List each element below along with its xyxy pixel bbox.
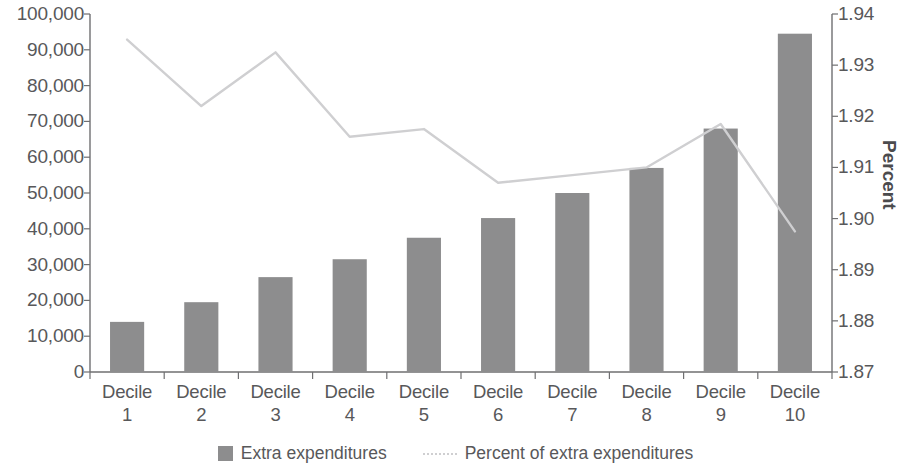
right-axis-tick-label: 1.94 bbox=[838, 3, 874, 25]
x-axis-category-label: Decile6 bbox=[461, 380, 535, 440]
right-axis-tick-label: 1.91 bbox=[838, 156, 874, 178]
x-axis-category-label: Decile4 bbox=[313, 380, 387, 440]
left-axis-tick-label: 80,000 bbox=[27, 75, 84, 97]
category-word: Decile bbox=[770, 381, 820, 402]
x-axis-category-label: Decile2 bbox=[164, 380, 238, 440]
left-axis-tick-label: 50,000 bbox=[27, 182, 84, 204]
x-axis-category-label: Decile10 bbox=[758, 380, 832, 440]
left-axis-tick-label: 90,000 bbox=[27, 39, 84, 61]
x-axis-category-labels: Decile1Decile2Decile3Decile4Decile5Decil… bbox=[90, 380, 832, 440]
plot-svg bbox=[90, 14, 832, 372]
category-word: Decile bbox=[176, 381, 226, 402]
x-axis-category-label: Decile3 bbox=[238, 380, 312, 440]
bar bbox=[258, 277, 292, 372]
category-word: Decile bbox=[325, 381, 375, 402]
left-axis-tick-label: 70,000 bbox=[27, 110, 84, 132]
legend-line-swatch-icon bbox=[423, 453, 457, 455]
legend-label: Extra expenditures bbox=[241, 443, 387, 464]
category-word: Decile bbox=[696, 381, 746, 402]
legend-entry[interactable]: Percent of extra expenditures bbox=[423, 443, 694, 464]
x-axis-category-label: Decile5 bbox=[387, 380, 461, 440]
category-number: 10 bbox=[758, 403, 832, 426]
right-axis-tick-label: 1.92 bbox=[838, 105, 874, 127]
left-axis-tick-label: 40,000 bbox=[27, 218, 84, 240]
right-axis-tick-labels: 1.871.881.891.901.911.921.931.94 bbox=[838, 0, 898, 471]
bar bbox=[778, 34, 812, 372]
right-axis-tick-label: 1.90 bbox=[838, 208, 874, 230]
category-word: Decile bbox=[102, 381, 152, 402]
percent-line bbox=[127, 40, 795, 232]
right-axis-tick-label: 1.88 bbox=[838, 310, 874, 332]
category-number: 7 bbox=[535, 403, 609, 426]
bar bbox=[333, 259, 367, 372]
x-axis-category-label: Decile9 bbox=[684, 380, 758, 440]
category-number: 1 bbox=[90, 403, 164, 426]
category-number: 8 bbox=[609, 403, 683, 426]
bar bbox=[184, 302, 218, 372]
bar bbox=[407, 238, 441, 372]
category-number: 9 bbox=[684, 403, 758, 426]
legend-bar-swatch-icon bbox=[218, 446, 233, 461]
bar bbox=[110, 322, 144, 372]
bar bbox=[629, 168, 663, 372]
left-axis-tick-label: 30,000 bbox=[27, 254, 84, 276]
right-axis-tick-label: 1.93 bbox=[838, 54, 874, 76]
right-axis-title: Percent bbox=[878, 140, 900, 210]
bar bbox=[555, 193, 589, 372]
category-word: Decile bbox=[399, 381, 449, 402]
category-number: 6 bbox=[461, 403, 535, 426]
left-axis-tick-labels: 010,00020,00030,00040,00050,00060,00070,… bbox=[0, 0, 84, 471]
legend-entry[interactable]: Extra expenditures bbox=[218, 443, 387, 464]
category-number: 5 bbox=[387, 403, 461, 426]
chart-container: 010,00020,00030,00040,00050,00060,00070,… bbox=[0, 0, 911, 471]
bar bbox=[704, 129, 738, 372]
x-axis-category-label: Decile8 bbox=[609, 380, 683, 440]
category-word: Decile bbox=[621, 381, 671, 402]
right-axis-tick-label: 1.87 bbox=[838, 361, 874, 383]
category-word: Decile bbox=[250, 381, 300, 402]
left-axis-tick-label: 100,000 bbox=[17, 3, 84, 25]
chart-legend: Extra expendituresPercent of extra expen… bbox=[0, 443, 911, 464]
category-number: 3 bbox=[238, 403, 312, 426]
left-axis-tick-label: 0 bbox=[74, 361, 84, 383]
category-number: 2 bbox=[164, 403, 238, 426]
left-axis-tick-label: 10,000 bbox=[27, 325, 84, 347]
x-axis-category-label: Decile7 bbox=[535, 380, 609, 440]
left-axis-tick-label: 20,000 bbox=[27, 289, 84, 311]
category-word: Decile bbox=[473, 381, 523, 402]
bar bbox=[481, 218, 515, 372]
category-word: Decile bbox=[547, 381, 597, 402]
left-axis-tick-label: 60,000 bbox=[27, 146, 84, 168]
category-number: 4 bbox=[313, 403, 387, 426]
right-axis-tick-label: 1.89 bbox=[838, 259, 874, 281]
plot-area bbox=[90, 14, 832, 372]
legend-label: Percent of extra expenditures bbox=[465, 443, 694, 464]
x-axis-category-label: Decile1 bbox=[90, 380, 164, 440]
